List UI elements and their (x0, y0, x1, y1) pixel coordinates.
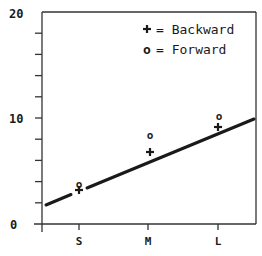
y-axis-ticks (35, 33, 42, 203)
legend-item-forward: o = Forward (143, 42, 226, 57)
y-label-0: 0 (10, 218, 17, 232)
y-label-10: 10 (9, 112, 23, 126)
backward-marker-m (146, 148, 154, 156)
legend: = Backward o = Forward (143, 22, 234, 57)
x-label-m: M (145, 235, 152, 248)
legend-label-backward: = Backward (156, 22, 234, 37)
x-label-s: S (76, 235, 83, 248)
x-axis-ticks (79, 224, 218, 230)
chart: 20 10 0 S M L o o o = Backward (0, 0, 262, 256)
forward-marker-m: o (147, 129, 154, 142)
backward-marker-l (214, 123, 222, 131)
forward-marker-l: o (216, 110, 223, 123)
plus-icon (143, 25, 151, 33)
y-label-20: 20 (9, 7, 23, 21)
legend-label-forward: = Forward (156, 42, 226, 57)
x-label-l: L (215, 235, 222, 248)
circle-icon: o (143, 42, 151, 57)
legend-item-backward: = Backward (143, 22, 234, 37)
